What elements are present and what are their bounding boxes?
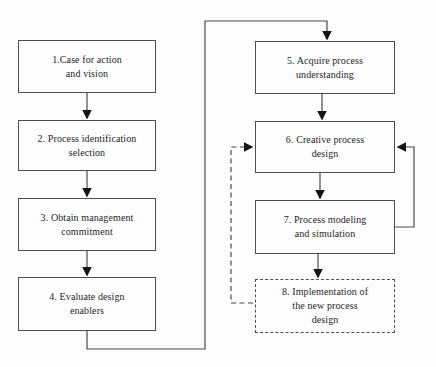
flowchart-figure: 1.Case for action and vision 2. Process …	[0, 0, 436, 367]
step-1-case-for-action-box: 1.Case for action and vision	[18, 40, 156, 93]
step-3-management-commitment-box: 3. Obtain management commitment	[18, 198, 156, 251]
step-label-line: and simulation	[295, 227, 356, 241]
step-label-line: the new process	[292, 299, 357, 313]
step-label-line: design	[312, 147, 339, 161]
step-label-line: 1.Case for action	[52, 53, 122, 67]
arrow-step7-to-step6-feedback	[393, 147, 414, 227]
step-8-implementation-new-process-box: 8. Implementation of the new process des…	[255, 279, 395, 333]
arrow-step8-to-step6-dashed-feedback	[231, 147, 253, 303]
step-4-evaluate-design-enablers-box: 4. Evaluate design enablers	[18, 277, 156, 331]
step-2-process-identification-box: 2. Process identification selection	[18, 120, 156, 171]
step-label-line: understanding	[296, 68, 354, 82]
step-label-line: 8. Implementation of	[282, 285, 368, 299]
step-label-line: 4. Evaluate design	[49, 290, 124, 304]
step-label-line: commitment	[61, 225, 113, 239]
step-6-creative-process-design-box: 6. Creative process design	[255, 121, 395, 173]
step-label-line: 5. Acquire process	[287, 54, 363, 68]
step-label-line: selection	[69, 146, 105, 160]
step-5-acquire-process-understanding-box: 5. Acquire process understanding	[255, 41, 395, 94]
step-label-line: 3. Obtain management	[41, 211, 134, 225]
step-7-process-modeling-simulation-box: 7. Process modeling and simulation	[255, 200, 395, 254]
step-label-line: design	[312, 313, 339, 327]
step-label-line: 6. Creative process	[286, 133, 364, 147]
step-label-line: 2. Process identification	[38, 132, 137, 146]
step-label-line: and vision	[66, 67, 108, 81]
step-label-line: 7. Process modeling	[284, 213, 367, 227]
step-label-line: enablers	[70, 304, 104, 318]
